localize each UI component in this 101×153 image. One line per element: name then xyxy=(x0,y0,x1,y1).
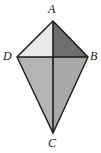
vertex-label-c: C xyxy=(48,137,56,149)
kite-drawing xyxy=(0,0,101,153)
vertex-label-a: A xyxy=(48,3,55,15)
kite-figure: A D B C xyxy=(0,0,101,153)
vertex-label-d: D xyxy=(3,50,12,62)
vertex-label-b: B xyxy=(90,50,97,62)
